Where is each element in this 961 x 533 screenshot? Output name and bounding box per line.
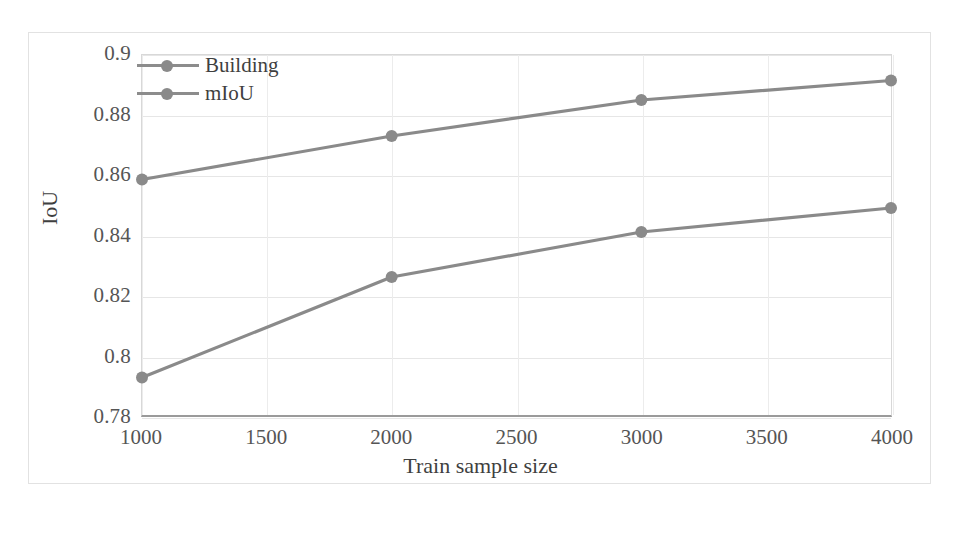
- x-tick-label: 3500: [722, 427, 812, 448]
- x-tick-label: 2500: [472, 427, 562, 448]
- x-tick-label: 1500: [221, 427, 311, 448]
- plot-area: [141, 54, 892, 417]
- y-tick-label: 0.8: [71, 346, 131, 367]
- legend-item[interactable]: Building: [137, 51, 279, 79]
- data-point-marker: [136, 372, 148, 384]
- x-tick-label: 3000: [597, 427, 687, 448]
- legend-item[interactable]: mIoU: [137, 79, 279, 107]
- y-axis-title: IoU: [37, 191, 63, 225]
- legend-item-label: mIoU: [205, 81, 254, 106]
- y-tick-label: 0.9: [71, 43, 131, 64]
- x-tick-label: 4000: [847, 427, 937, 448]
- y-tick-label: 0.88: [71, 104, 131, 125]
- gridline-horizontal: [142, 418, 891, 419]
- x-axis-title: Train sample size: [29, 453, 932, 479]
- gridline-vertical: [893, 55, 894, 415]
- y-tick-label: 0.86: [71, 164, 131, 185]
- data-point-marker: [885, 75, 897, 87]
- y-tick-label: 0.82: [71, 285, 131, 306]
- data-point-marker: [885, 202, 897, 214]
- data-point-marker: [136, 174, 148, 186]
- data-point-marker: [386, 130, 398, 142]
- series-line: [142, 208, 891, 378]
- legend-marker-icon: [137, 57, 199, 73]
- data-point-marker: [635, 226, 647, 238]
- legend-item-label: Building: [205, 53, 279, 78]
- y-tick-label: 0.78: [71, 406, 131, 427]
- data-point-marker: [386, 271, 398, 283]
- x-tick-label: 1000: [96, 427, 186, 448]
- y-tick-label: 0.84: [71, 225, 131, 246]
- data-point-marker: [635, 94, 647, 106]
- figure-frame: IoU 0.90.880.860.840.820.80.78 100015002…: [28, 32, 931, 484]
- data-series-layer: [142, 55, 891, 415]
- chart-legend: BuildingmIoU: [137, 51, 279, 107]
- x-tick-label: 2000: [346, 427, 436, 448]
- legend-marker-icon: [137, 85, 199, 101]
